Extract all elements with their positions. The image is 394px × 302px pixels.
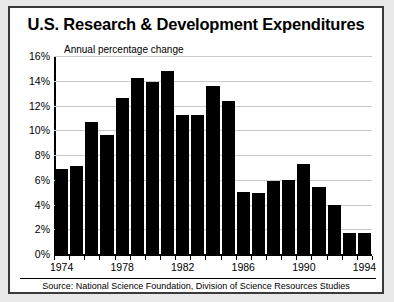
bar — [191, 115, 204, 254]
x-axis-tick — [54, 256, 55, 260]
bar — [146, 82, 159, 254]
bar — [70, 166, 83, 254]
x-axis-tick — [160, 256, 161, 260]
bar — [237, 192, 250, 254]
x-axis-tick — [221, 256, 222, 260]
y-axis-tick-label: 2% — [14, 223, 50, 235]
y-axis-tick-label: 16% — [14, 50, 50, 62]
x-axis-tick — [205, 256, 206, 260]
bar — [297, 164, 310, 254]
x-axis-tick — [372, 256, 373, 260]
x-axis-tick — [357, 256, 358, 260]
bar — [85, 122, 98, 254]
gridline — [54, 81, 372, 82]
source-note: Source: National Science Foundation, Div… — [10, 281, 382, 291]
bar — [328, 205, 341, 255]
bar — [267, 181, 280, 254]
bar — [252, 193, 265, 254]
x-axis-tick — [327, 256, 328, 260]
x-axis-tick-label: 1974 — [50, 261, 73, 273]
bar — [176, 115, 189, 254]
x-axis-tick-label: 1982 — [171, 261, 194, 273]
x-axis-tick — [236, 256, 237, 260]
chart-figure: U.S. Research & Development Expenditures… — [8, 6, 384, 294]
x-axis-tick — [190, 256, 191, 260]
y-axis-tick-label: 4% — [14, 199, 50, 211]
y-axis-tick-label: 10% — [14, 124, 50, 136]
y-axis-tick-label: 8% — [14, 149, 50, 161]
bars-container — [54, 56, 372, 254]
bar — [312, 187, 325, 254]
x-axis-tick-label: 1994 — [353, 261, 376, 273]
y-axis-tick-label: 14% — [14, 75, 50, 87]
bar — [343, 233, 356, 254]
x-axis-tick — [99, 256, 100, 260]
x-axis-tick — [130, 256, 131, 260]
bar — [282, 180, 295, 254]
y-axis-tick-label: 6% — [14, 174, 50, 186]
x-axis-tick — [145, 256, 146, 260]
x-axis-labels: 197419781982198619901994 — [54, 261, 372, 275]
bar — [222, 101, 235, 254]
bar — [161, 71, 174, 254]
bar — [358, 233, 371, 254]
plot-area: 16%14%12%10%8%6%4%2%0% 19741978198219861… — [10, 8, 382, 292]
y-axis-labels: 16%14%12%10%8%6%4%2%0% — [10, 56, 50, 254]
x-axis-tick — [342, 256, 343, 260]
x-axis-tick — [84, 256, 85, 260]
x-axis-tick — [311, 256, 312, 260]
x-axis-tick-label: 1978 — [110, 261, 133, 273]
x-axis-tick — [251, 256, 252, 260]
bar — [131, 78, 144, 254]
source-divider — [20, 278, 376, 279]
y-axis-tick-label: 0% — [14, 248, 50, 260]
x-axis-tick-label: 1986 — [232, 261, 255, 273]
bar — [206, 86, 219, 254]
x-axis-tick-label: 1990 — [292, 261, 315, 273]
x-axis-tick — [69, 256, 70, 260]
bar — [100, 135, 113, 254]
bar — [55, 169, 68, 254]
x-axis-tick — [266, 256, 267, 260]
bar — [116, 98, 129, 254]
gridline — [54, 56, 372, 57]
y-axis-tick-label: 12% — [14, 100, 50, 112]
x-axis-tick — [296, 256, 297, 260]
x-axis-tick — [175, 256, 176, 260]
x-axis-tick — [115, 256, 116, 260]
x-axis-tick — [281, 256, 282, 260]
